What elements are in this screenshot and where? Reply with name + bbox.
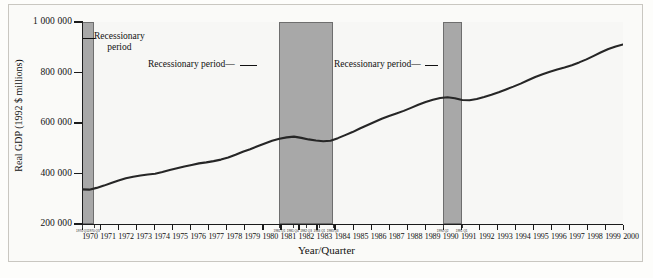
x-tick-1988 xyxy=(407,225,408,230)
x-tick-1995 xyxy=(533,225,534,230)
x-tick-1989 xyxy=(425,225,426,230)
quarter-tick-1-0 xyxy=(279,225,280,228)
x-label-1997: 1997 xyxy=(569,232,585,241)
quarter-label-1-0: 1981 Q1 xyxy=(274,229,286,233)
x-tick-1972 xyxy=(118,225,119,230)
x-label-1986: 1986 xyxy=(371,232,387,241)
annotation-recession-2: Recessionary period— xyxy=(148,59,235,70)
leader-line-2 xyxy=(240,65,257,66)
annotation-recession-3: Recessionary period— xyxy=(334,59,421,70)
x-tick-1975 xyxy=(172,225,173,230)
x-label-1999: 1999 xyxy=(605,232,621,241)
x-label-1987: 1987 xyxy=(389,232,405,241)
x-tick-1973 xyxy=(136,225,137,230)
quarter-label-1-1: 1981 Q4 xyxy=(287,229,299,233)
quarter-tick-0-0 xyxy=(82,225,83,228)
gdp-line-chart xyxy=(82,22,623,224)
y-label-1000000: 1 000 000 xyxy=(10,16,72,26)
quarter-tick-0-1 xyxy=(94,225,95,228)
x-tick-1986 xyxy=(371,225,372,230)
x-label-1972: 1972 xyxy=(118,232,134,241)
quarter-label-2-1: 1991 Q1 xyxy=(456,229,468,233)
annotation-recession-1-line2: period xyxy=(107,42,131,52)
x-tick-1980 xyxy=(262,225,263,230)
x-tick-1992 xyxy=(479,225,480,230)
x-label-1993: 1993 xyxy=(497,232,513,241)
quarter-label-1-3: 1983 Q1 xyxy=(313,229,325,233)
x-tick-1974 xyxy=(154,225,155,230)
annotation-recession-1-line1: Recessionary xyxy=(94,31,145,41)
x-label-1990: 1990 xyxy=(443,232,459,241)
quarter-tick-1-2 xyxy=(306,225,307,228)
y-label-200000: 200 000 xyxy=(10,218,72,228)
x-label-1982: 1982 xyxy=(299,232,315,241)
x-label-1989: 1989 xyxy=(425,232,441,241)
quarter-tick-1-1 xyxy=(293,225,294,228)
x-label-2000: 2000 xyxy=(623,232,639,241)
x-tick-1979 xyxy=(244,225,245,230)
leader-line-1 xyxy=(83,38,95,39)
quarter-label-0-0: 1970 Q1 xyxy=(76,229,88,233)
x-tick-1976 xyxy=(190,225,191,230)
quarter-label-0-1: 1970 Q3 xyxy=(88,229,100,233)
x-label-1988: 1988 xyxy=(407,232,423,241)
x-label-1996: 1996 xyxy=(551,232,567,241)
x-label-1980: 1980 xyxy=(263,232,279,241)
x-label-1974: 1974 xyxy=(154,232,170,241)
x-label-1975: 1975 xyxy=(172,232,188,241)
x-label-1978: 1978 xyxy=(226,232,242,241)
x-tick-1993 xyxy=(497,225,498,230)
quarter-label-1-4: 1983 Q3 xyxy=(327,229,339,233)
x-label-1984: 1984 xyxy=(335,232,351,241)
quarter-tick-1-4 xyxy=(333,225,334,228)
x-label-1983: 1983 xyxy=(317,232,333,241)
x-label-1992: 1992 xyxy=(479,232,495,241)
x-tick-1997 xyxy=(569,225,570,230)
x-label-1977: 1977 xyxy=(208,232,224,241)
quarter-label-1-2: 1982 Q3 xyxy=(300,229,312,233)
x-tick-1996 xyxy=(551,225,552,230)
quarter-tick-2-0 xyxy=(443,225,444,228)
x-tick-1994 xyxy=(515,225,516,230)
quarter-tick-2-1 xyxy=(462,225,463,228)
x-label-1994: 1994 xyxy=(515,232,531,241)
x-axis-title: Year/Quarter xyxy=(0,244,653,256)
leader-line-3 xyxy=(425,65,438,66)
quarter-label-2-0: 1990 Q2 xyxy=(437,229,449,233)
x-label-1998: 1998 xyxy=(587,232,603,241)
annotation-recession-1: Recessionaryperiod xyxy=(94,31,145,53)
x-tick-1998 xyxy=(587,225,588,230)
x-tick-1999 xyxy=(605,225,606,230)
x-label-1979: 1979 xyxy=(244,232,260,241)
x-label-1971: 1971 xyxy=(100,232,116,241)
x-label-1995: 1995 xyxy=(533,232,549,241)
x-tick-2000 xyxy=(623,225,624,230)
x-label-1973: 1973 xyxy=(136,232,152,241)
figure-root: 200 000400 000600 000800 0001 000 000 Re… xyxy=(0,0,653,278)
x-label-1981: 1981 xyxy=(281,232,297,241)
quarter-tick-1-3 xyxy=(319,225,320,228)
x-label-1976: 1976 xyxy=(190,232,206,241)
x-label-1970: 1970 xyxy=(82,232,98,241)
x-tick-1971 xyxy=(100,225,101,230)
y-axis-labels: 200 000400 000600 000800 0001 000 000 xyxy=(0,0,72,278)
x-tick-1978 xyxy=(226,225,227,230)
x-tick-1977 xyxy=(208,225,209,230)
x-label-1991: 1991 xyxy=(461,232,477,241)
x-label-1985: 1985 xyxy=(353,232,369,241)
x-tick-1985 xyxy=(353,225,354,230)
y-axis-title: Real GDP (1992 $ millions) xyxy=(13,36,24,196)
x-tick-1987 xyxy=(389,225,390,230)
